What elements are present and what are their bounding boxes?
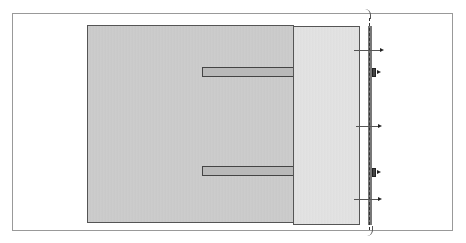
clip-top	[372, 68, 376, 77]
arrow-icon	[378, 197, 382, 201]
main-block	[87, 25, 294, 223]
side-panel	[293, 26, 360, 225]
marker-line-middle	[356, 126, 378, 127]
marker-line-top	[354, 50, 380, 51]
lower-bar	[202, 166, 294, 176]
arrow-icon	[377, 70, 381, 74]
clip-bottom	[372, 168, 376, 177]
arrow-icon	[380, 48, 384, 52]
bottom-break-mark	[364, 226, 373, 236]
arrow-icon	[377, 170, 381, 174]
marker-line-bottom	[354, 199, 378, 200]
upper-bar	[202, 67, 294, 77]
arrow-icon	[378, 124, 382, 128]
top-break-mark	[362, 9, 371, 19]
